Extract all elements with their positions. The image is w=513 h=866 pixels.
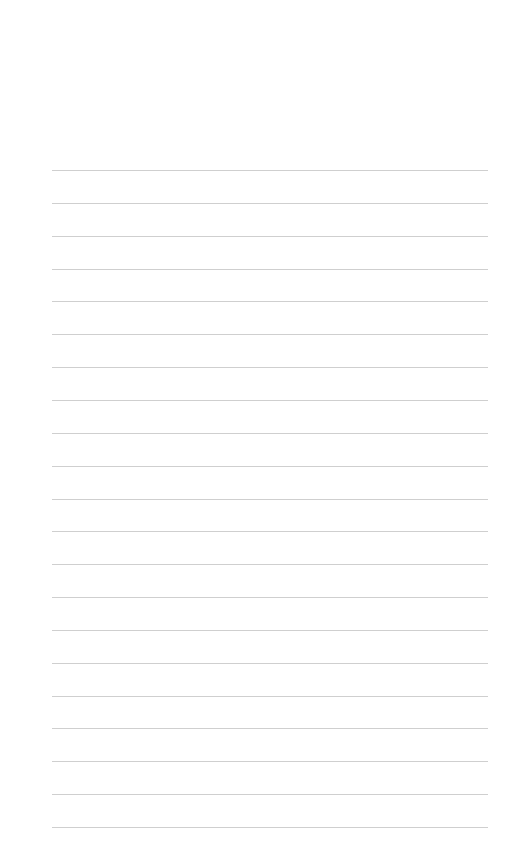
ruled-line [52,236,488,237]
ruled-line [52,761,488,762]
ruled-line [52,827,488,828]
ruled-line [52,400,488,401]
ruled-line [52,203,488,204]
ruled-line [52,564,488,565]
ruled-line [52,170,488,171]
ruled-line [52,367,488,368]
ruled-line [52,696,488,697]
ruled-line [52,499,488,500]
ruled-line [52,301,488,302]
ruled-line [52,663,488,664]
ruled-line [52,597,488,598]
ruled-line [52,728,488,729]
ruled-line [52,794,488,795]
ruled-line [52,433,488,434]
ruled-line [52,269,488,270]
ruled-line [52,630,488,631]
ruled-line [52,531,488,532]
ruled-line [52,466,488,467]
lined-paper-page [0,0,513,866]
ruled-line [52,334,488,335]
